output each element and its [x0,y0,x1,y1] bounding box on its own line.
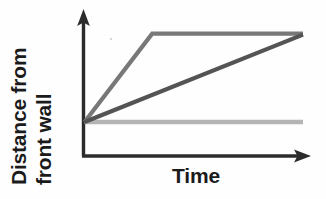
x-axis-label: Time [82,163,310,189]
scan-speckle-artifact [110,38,112,40]
y-axis-label-line-2: front wall [31,94,56,185]
distance-time-graph-figure: Distance from front wall Time [0,0,326,199]
y-axis-label-line-1: Distance from [6,48,31,185]
y-axis-label: Distance from front wall [0,0,62,199]
